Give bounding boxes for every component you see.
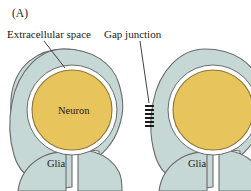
glia-cell-left: [10, 49, 123, 191]
label-glia-left: Glia: [47, 159, 65, 170]
panel-label: (A): [12, 8, 28, 20]
glia-left-lobe-right: [78, 151, 122, 191]
label-extracellular-space: Extracellular space: [7, 29, 91, 40]
label-neuron: Neuron: [58, 106, 90, 117]
label-glia-right: Glia: [188, 159, 206, 170]
label-gap-junction: Gap junction: [104, 29, 161, 40]
glia-right-lobe-right: [219, 151, 251, 191]
figure-panel-a: (A) Extracellular space Gap junction Neu…: [0, 0, 251, 191]
neuron-right: [173, 70, 251, 150]
glia-cell-right: [151, 49, 251, 191]
leader-line-gap-junction: [140, 41, 149, 103]
